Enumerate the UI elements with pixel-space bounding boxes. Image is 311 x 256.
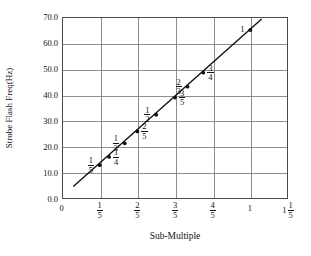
x-axis-tick-label: 45 [193, 201, 233, 219]
plot-area [62, 17, 288, 199]
y-axis-tick-label: 60.0 [24, 39, 58, 48]
gridline-vertical [101, 18, 102, 198]
data-point-label: 12 [144, 106, 150, 124]
y-axis-tick-label: 30.0 [24, 117, 58, 126]
y-axis-tick-label: 10.0 [24, 169, 58, 178]
x-axis-tick-label: 35 [155, 201, 195, 219]
chart-figure: 70.060.050.040.030.020.010.00.0 Strobe F… [0, 0, 311, 256]
gridline-horizontal [63, 121, 287, 122]
x-axis-title: Sub-Multiple [62, 231, 288, 241]
data-point-label: 25 [141, 122, 147, 140]
gridline-vertical [138, 18, 139, 198]
data-point-label: 1 [240, 25, 244, 34]
gridline-horizontal [63, 173, 287, 174]
y-axis-tick-label: 20.0 [24, 143, 58, 152]
data-point-label: 13 [113, 134, 119, 152]
gridline-horizontal [63, 44, 287, 45]
y-axis-title: Strobe Flash Freq(Hz) [4, 33, 14, 183]
gridline-vertical [251, 18, 252, 198]
x-axis-tick-label: 115 [268, 201, 308, 219]
gridline-horizontal [63, 147, 287, 148]
gridline-vertical [176, 18, 177, 198]
y-axis-tick-label: 70.0 [24, 13, 58, 22]
gridline-horizontal [63, 70, 287, 71]
y-axis-tick-label: 50.0 [24, 65, 58, 74]
x-axis-ticks: 0152535451115 [0, 199, 311, 233]
x-axis-tick-label: 1 [230, 201, 270, 213]
x-axis-tick-label: 15 [80, 201, 120, 219]
gridline-vertical [214, 18, 215, 198]
data-point-label: 15 [88, 156, 94, 174]
x-axis-tick-label: 25 [117, 201, 157, 219]
data-point-label: 23 [176, 78, 182, 96]
y-axis-tick-label: 40.0 [24, 91, 58, 100]
data-point-label: 34 [207, 64, 213, 82]
x-axis-tick-label: 0 [42, 201, 82, 213]
